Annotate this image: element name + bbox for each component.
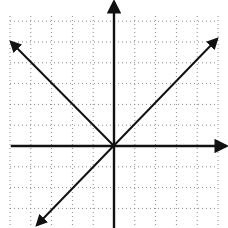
coordinate-plane-diagram <box>0 0 228 228</box>
